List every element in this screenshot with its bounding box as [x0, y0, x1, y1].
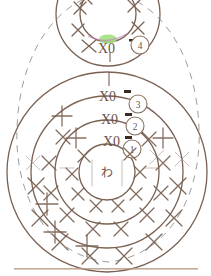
svg-text:4: 4: [138, 41, 143, 51]
svg-text:3: 3: [136, 100, 141, 110]
pattern-chart-canvas: X0 4 わ X0 3: [0, 0, 211, 276]
round-4-badge: 4: [131, 36, 149, 54]
center-ring-label: わ: [101, 166, 113, 180]
bottom-rule: [14, 268, 198, 270]
svg-text:2: 2: [133, 122, 138, 132]
round-1-accent-mark: [125, 136, 132, 139]
lower-motif-group: わ X0 3 X0 2 X0 1: [7, 72, 207, 272]
round-1-code: X0: [103, 134, 120, 149]
round-4-code: X0: [98, 41, 115, 56]
upper-motif-group: X0 4: [56, 0, 160, 66]
round-2-accent-mark: [125, 113, 132, 116]
ring-plus-stitches: [36, 106, 173, 257]
round-2-code: X0: [101, 112, 118, 127]
round-2-badge: 2: [126, 117, 144, 135]
round-3-code: X0: [99, 89, 116, 104]
crochet-pattern-diagram: X0 4 わ X0 3: [0, 0, 211, 276]
round-3-accent-mark: [124, 90, 131, 93]
round-3-badge: 3: [129, 95, 147, 113]
